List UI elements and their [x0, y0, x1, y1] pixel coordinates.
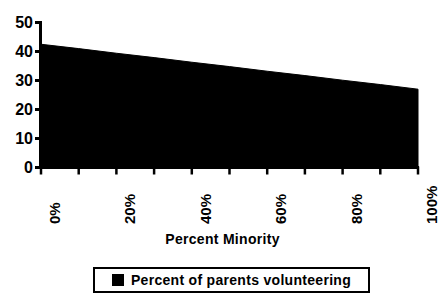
x-axis-tick-label: 100%: [424, 186, 439, 224]
y-axis-tick-label: 0: [2, 160, 33, 176]
series-area-percent-of-parents-volunteering: [41, 44, 418, 167]
chart-container: 01020304050 0%20%40%60%80%100% Percent M…: [0, 0, 445, 300]
y-axis-tick-label: 20: [2, 102, 33, 118]
x-axis-title: Percent Minority: [0, 231, 445, 247]
x-axis-tick-label: 0%: [47, 202, 62, 224]
plot-area: 01020304050 0%20%40%60%80%100%: [0, 0, 445, 300]
y-axis-tick-label: 10: [2, 131, 33, 147]
legend-swatch-icon: [112, 274, 124, 286]
y-axis-tick-label: 30: [2, 73, 33, 89]
y-axis-tick-label: 50: [2, 15, 33, 31]
legend-item: Percent of parents volunteering: [112, 272, 351, 288]
x-axis-tick-label: 20%: [122, 194, 137, 224]
legend-item-label: Percent of parents volunteering: [131, 272, 351, 288]
y-axis-tick-label: 40: [2, 44, 33, 60]
x-axis-tick-label: 80%: [349, 194, 364, 224]
area-chart-svg: [0, 0, 445, 300]
x-axis-tick-label: 40%: [198, 194, 213, 224]
x-axis-tick-label: 60%: [273, 194, 288, 224]
chart-legend: Percent of parents volunteering: [93, 267, 370, 293]
